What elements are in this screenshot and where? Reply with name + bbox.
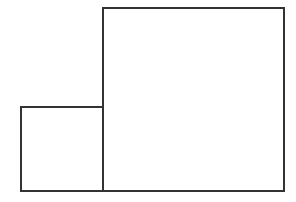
large-rectangle [103, 8, 284, 191]
diagram-canvas [0, 0, 296, 202]
small-rectangle [21, 107, 103, 191]
